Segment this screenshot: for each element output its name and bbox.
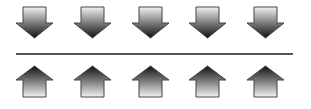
down-arrow-icon	[188, 6, 228, 40]
up-arrow-icon	[131, 65, 171, 99]
up-arrow-icon	[15, 65, 55, 99]
down-arrow-icon	[131, 6, 171, 40]
down-arrow-icon	[15, 6, 55, 40]
up-arrow-icon	[73, 65, 113, 99]
up-arrow-icon	[246, 65, 286, 99]
divider-line	[16, 53, 293, 55]
down-arrow-icon	[246, 6, 286, 40]
down-arrow-icon	[73, 6, 113, 40]
up-arrow-icon	[188, 65, 228, 99]
